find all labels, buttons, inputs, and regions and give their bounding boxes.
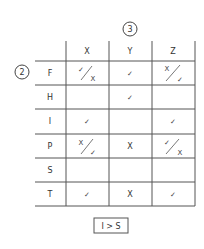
column-header-x: X	[84, 47, 90, 56]
split-bottom-mark: ✓	[90, 149, 96, 157]
row-group-marker: 2	[15, 65, 29, 79]
conclusion-text: I > S	[101, 222, 120, 231]
row-label-h: H	[47, 93, 53, 102]
column-header-y: Y	[127, 47, 133, 56]
row-group-label: 2	[19, 68, 24, 77]
cell-p-x: X ✓	[79, 139, 96, 157]
row-label-f: F	[48, 69, 53, 78]
split-bottom-mark: ✓	[177, 76, 183, 84]
split-top-mark: ✓	[78, 66, 84, 74]
cell-h-y: ✓	[127, 94, 133, 102]
row-label-t: T	[47, 190, 53, 199]
cell-f-z: X ✓	[165, 65, 183, 84]
column-group-marker: 3	[123, 22, 137, 36]
split-top-mark: ✓	[164, 139, 170, 147]
row-label-s: S	[47, 166, 52, 175]
split-top-mark: X	[165, 65, 170, 73]
column-headers: X Y Z	[84, 47, 176, 56]
cell-p-y: X	[127, 142, 133, 151]
logic-grid-diagram: 3 2 X Y Z F H I P S T ✓ X	[0, 0, 204, 249]
split-bottom-mark: X	[178, 149, 183, 157]
cell-t-z: ✓	[170, 191, 176, 199]
split-bottom-mark: X	[91, 75, 96, 83]
row-label-p: P	[48, 142, 53, 151]
cell-i-x: ✓	[84, 118, 90, 126]
row-label-i: I	[49, 117, 51, 126]
cell-t-x: ✓	[84, 191, 90, 199]
cell-t-y: X	[127, 190, 133, 199]
cell-f-y: ✓	[127, 70, 133, 78]
cell-i-z: ✓	[170, 118, 176, 126]
cell-f-x: ✓ X	[78, 66, 96, 83]
column-header-z: Z	[170, 47, 176, 56]
cell-p-z: ✓ X	[164, 139, 183, 157]
column-group-label: 3	[127, 25, 132, 34]
split-top-mark: X	[79, 139, 84, 147]
conclusion-box: I > S	[94, 218, 128, 233]
